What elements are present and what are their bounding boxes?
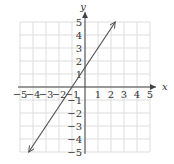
y-axis-label: y (79, 1, 86, 12)
y-tick-label: 2 (76, 56, 82, 67)
x-tick-label: 4 (134, 89, 140, 100)
y-tick-label: −1 (67, 95, 82, 106)
x-tick-labels: −5−4−3−2−112345 (13, 89, 154, 100)
x-tick-label: 3 (121, 89, 127, 100)
y-tick-label: 4 (76, 30, 82, 41)
y-tick-label: −3 (67, 121, 82, 132)
y-tick-label: 5 (76, 17, 82, 28)
x-axis-label: x (162, 81, 168, 92)
y-tick-label: −2 (67, 108, 82, 119)
y-tick-label: −5 (67, 147, 82, 158)
x-tick-label: 5 (147, 89, 153, 100)
x-tick-label: 1 (95, 89, 101, 100)
y-tick-label: 3 (76, 43, 82, 54)
x-tick-label: 2 (108, 89, 114, 100)
y-tick-label: −4 (67, 134, 82, 145)
coordinate-plane: xy−5−4−3−2−11234554321−1−2−3−4−5 (0, 0, 174, 164)
